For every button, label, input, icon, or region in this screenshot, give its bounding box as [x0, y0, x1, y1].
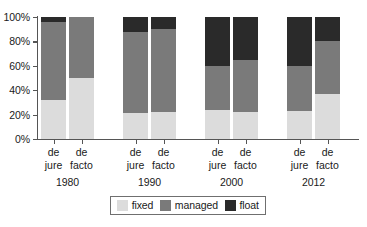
x-axis-label-line2: facto — [59, 159, 105, 172]
x-axis-tick-mark — [82, 140, 83, 144]
bar-segment-float — [233, 17, 258, 60]
y-axis-tick-mark — [33, 139, 37, 140]
bar-segment-managed — [69, 17, 94, 78]
y-axis-tick-label: 100% — [4, 12, 30, 23]
x-axis-label-line1: de — [141, 146, 187, 159]
legend-label-managed: managed — [175, 200, 218, 211]
y-axis: 100%80%60%40%20%0% — [0, 17, 33, 139]
x-axis-year-label-2000: 2000 — [197, 177, 267, 188]
bar-segment-managed — [205, 66, 230, 110]
bar-2012-de-facto — [315, 17, 340, 139]
legend-item-fixed[interactable]: fixed — [117, 200, 153, 211]
bar-segment-managed — [315, 41, 340, 93]
legend-item-float[interactable]: float — [225, 200, 259, 211]
x-axis-label-line2: facto — [223, 159, 269, 172]
y-axis-tick-label: 0% — [15, 134, 30, 145]
bar-1980-de-facto — [69, 17, 94, 139]
x-axis-label-line1: de — [59, 146, 105, 159]
bar-segment-fixed — [287, 111, 312, 139]
bar-segment-fixed — [205, 110, 230, 139]
x-axis-tick-mark — [246, 140, 247, 144]
y-axis-tick-label: 20% — [9, 109, 30, 120]
x-axis-label-de-facto: defacto — [141, 146, 187, 171]
bar-segment-float — [315, 17, 340, 41]
bar-segment-managed — [123, 32, 148, 114]
y-axis-tick-mark — [33, 115, 37, 116]
legend-label-fixed: fixed — [132, 200, 154, 211]
bar-1980-de-jure — [41, 17, 66, 139]
x-axis-year-label-2012: 2012 — [279, 177, 349, 188]
legend-swatch-managed — [160, 200, 171, 211]
legend-item-managed[interactable]: managed — [160, 200, 218, 211]
bar-segment-float — [123, 17, 148, 32]
legend-label-float: float — [239, 200, 258, 211]
y-axis-tick-label: 40% — [9, 85, 30, 96]
y-axis-tick-mark — [33, 41, 37, 42]
bar-segment-fixed — [41, 100, 66, 139]
bar-segment-float — [151, 17, 176, 29]
bar-1990-de-jure — [123, 17, 148, 139]
x-axis-label-de-facto: defacto — [305, 146, 351, 171]
legend-swatch-fixed — [117, 200, 128, 211]
bar-segment-float — [287, 17, 312, 66]
x-axis-label-de-facto: defacto — [223, 146, 269, 171]
bar-segment-managed — [41, 22, 66, 100]
y-axis-tick-label: 60% — [9, 61, 30, 72]
bar-2000-de-facto — [233, 17, 258, 139]
y-axis-tick-mark — [33, 66, 37, 67]
bar-segment-managed — [287, 66, 312, 111]
x-axis-tick-mark — [54, 140, 55, 144]
y-axis-tick-mark — [33, 90, 37, 91]
bar-segment-fixed — [69, 78, 94, 139]
bar-segment-fixed — [315, 94, 340, 139]
bar-2012-de-jure — [287, 17, 312, 139]
x-axis-label-line1: de — [223, 146, 269, 159]
bar-segment-managed — [233, 60, 258, 112]
bar-segment-float — [41, 17, 66, 22]
y-axis-tick-mark — [33, 17, 37, 18]
bar-segment-float — [205, 17, 230, 66]
x-axis-tick-mark — [136, 140, 137, 144]
plot-area — [37, 17, 359, 139]
bar-segment-fixed — [151, 112, 176, 139]
bar-segment-fixed — [233, 112, 258, 139]
x-axis-label-line2: facto — [305, 159, 351, 172]
x-axis-tick-mark — [164, 140, 165, 144]
legend-swatch-float — [225, 200, 236, 211]
bar-segment-managed — [151, 29, 176, 112]
x-axis-label-line2: facto — [141, 159, 187, 172]
x-axis-label-de-facto: defacto — [59, 146, 105, 171]
stacked-bar-chart: 100%80%60%40%20%0% fixedmanagedfloat dej… — [0, 0, 367, 227]
x-axis-tick-mark — [300, 140, 301, 144]
x-axis-label-line1: de — [305, 146, 351, 159]
bar-segment-fixed — [123, 113, 148, 139]
bar-2000-de-jure — [205, 17, 230, 139]
x-axis-tick-mark — [218, 140, 219, 144]
legend-items: fixedmanagedfloat — [111, 197, 265, 214]
y-axis-tick-label: 80% — [9, 36, 30, 47]
legend: fixedmanagedfloat — [110, 196, 266, 215]
x-axis-year-label-1990: 1990 — [115, 177, 185, 188]
x-axis-year-label-1980: 1980 — [33, 177, 103, 188]
x-axis-line — [37, 139, 359, 140]
x-axis-tick-mark — [328, 140, 329, 144]
bar-1990-de-facto — [151, 17, 176, 139]
